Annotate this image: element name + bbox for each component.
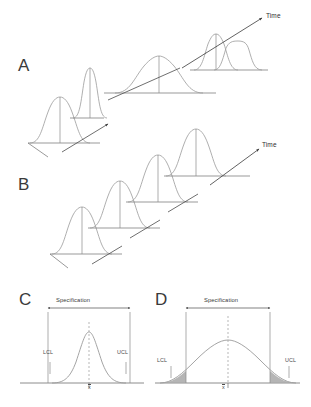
- panel-d-group: [155, 308, 300, 388]
- panel-c-group: [20, 308, 144, 388]
- panel-d-center-label: x: [222, 385, 225, 390]
- panel-d-lcl-label: LCL: [157, 358, 167, 363]
- panel-b-curve-4: [164, 129, 250, 176]
- panel-a-connector-2: [108, 68, 180, 100]
- panel-b-connector-3: [168, 194, 198, 212]
- panel-c-ucl-label: UCL: [117, 350, 128, 355]
- panel-b-time-label: Time: [262, 142, 277, 149]
- x-bar-glyph-d: x: [222, 385, 225, 390]
- panel-d-ucl-label: UCL: [285, 358, 296, 363]
- panel-a-connector-1: [62, 124, 108, 152]
- panel-b-time-arrow: [210, 149, 259, 185]
- panel-c-center-label: x: [88, 385, 91, 390]
- panel-a-group: [28, 18, 268, 157]
- panel-c-spec-label: Specification: [56, 298, 90, 304]
- spc-process-capability-figure: A B C D: [0, 0, 311, 407]
- figure-drawing: [0, 0, 311, 407]
- panel-a-curve-2: [70, 68, 107, 118]
- panel-d-spec-label: Specification: [204, 298, 238, 304]
- panel-b-curve-2: [88, 181, 160, 228]
- panel-b-connector-1: [92, 246, 122, 264]
- panel-a-curve-1: [28, 97, 100, 157]
- panel-b-curve-3: [126, 155, 198, 202]
- panel-b-curve-1: [50, 207, 122, 268]
- panel-a-curve-5: [214, 41, 262, 70]
- panel-a-curve-4: [190, 34, 268, 70]
- panel-b-group: [50, 129, 259, 268]
- panel-a-time-label: Time: [266, 13, 281, 20]
- panel-b-connector-2: [130, 220, 160, 238]
- panel-a-curve-3: [104, 56, 216, 93]
- x-bar-glyph-c: x: [88, 385, 91, 390]
- panel-c-lcl-label: LCL: [43, 350, 53, 355]
